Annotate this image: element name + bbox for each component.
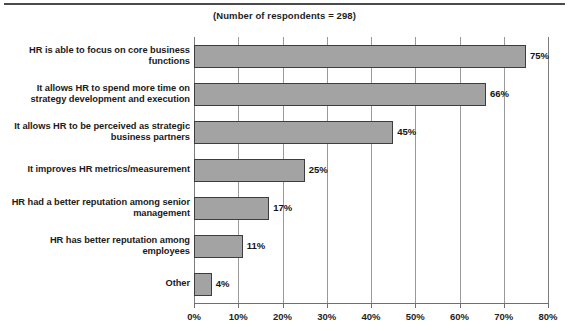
chart-subtitle: (Number of respondents = 298) [0,10,569,21]
bar-value-label: 17% [273,202,292,213]
bar[interactable] [194,273,212,296]
top-divider-rule [4,3,565,5]
bar[interactable] [194,235,243,258]
bar[interactable] [194,121,393,144]
x-axis-tick-label: 0% [187,311,201,322]
bar-value-label: 25% [309,164,328,175]
bar-value-label: 11% [247,240,266,251]
x-axis-tick-label: 40% [361,311,380,322]
gridline [504,37,505,303]
category-label: HR had a better reputation among senior … [4,197,190,220]
gridline [548,37,549,303]
x-axis-tick-label: 60% [450,311,469,322]
x-axis-tick [238,304,239,308]
x-axis-tick-label: 50% [406,311,425,322]
x-axis-tick [460,304,461,308]
bar-value-label: 75% [530,50,549,61]
bar-value-label: 4% [216,278,230,289]
category-label: HR has better reputation among employees [4,235,190,258]
category-label: It allows HR to spend more time on strat… [4,83,190,106]
category-label: It improves HR metrics/measurement [4,159,190,182]
x-axis-tick [504,304,505,308]
category-label: It allows HR to be perceived as strategi… [4,121,190,144]
bar[interactable] [194,197,269,220]
x-axis-tick [327,304,328,308]
bar[interactable] [194,159,305,182]
x-axis-tick [548,304,549,308]
category-label: Other [4,273,190,296]
gridline [415,37,416,303]
x-axis-tick [415,304,416,308]
category-label: HR is able to focus on core business fun… [4,45,190,68]
x-axis-tick [283,304,284,308]
gridline [460,37,461,303]
bar-value-label: 66% [490,88,509,99]
gridline [371,37,372,303]
bar[interactable] [194,45,526,68]
x-axis-tick-label: 10% [229,311,248,322]
x-axis-tick-label: 80% [538,311,557,322]
x-axis-tick-label: 30% [317,311,336,322]
horizontal-bar-chart: 0%10%20%30%40%50%60%70%80% HR is able to… [0,26,569,331]
x-axis-tick-label: 70% [494,311,513,322]
bar-value-label: 45% [397,126,416,137]
bar[interactable] [194,83,486,106]
x-axis-tick-label: 20% [273,311,292,322]
x-axis-tick [371,304,372,308]
x-axis-tick [194,304,195,308]
